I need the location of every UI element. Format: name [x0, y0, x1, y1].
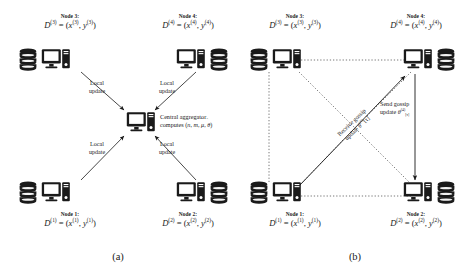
dataset-index: (1)	[50, 217, 56, 223]
x-index: (4)	[418, 19, 424, 25]
node-icons-node2	[403, 181, 456, 205]
local-update-line1: Local	[160, 141, 174, 147]
x-index: (3)	[297, 19, 303, 25]
node-equation-node3: D(3) = (x(3), y(3))	[16, 21, 124, 30]
node-icons-node1	[249, 181, 302, 205]
param-mu-hat: μ̂	[201, 121, 204, 128]
central-aggregator-label: Central aggregator computes (n̂, m̂, μ̂,…	[160, 113, 212, 130]
local-update-line2: update	[89, 149, 105, 155]
y-index: (2)	[433, 217, 439, 223]
node-equation-node4: D(4) = (x(4), y(4))	[140, 21, 236, 30]
database-icon	[436, 181, 456, 205]
node-icons-node3	[249, 48, 302, 72]
panel-caption-b: (b)	[237, 251, 473, 262]
dataset-index: (4)	[168, 19, 174, 25]
dataset-index: (4)	[396, 19, 402, 25]
send-gossip-line2: update θ(4)[τ]	[380, 109, 409, 115]
node-label-node1: Node 1: D(1) = (x(1), y(1))	[16, 212, 124, 228]
y-index: (3)	[87, 19, 93, 25]
dataset-index: (3)	[275, 19, 281, 25]
node-equation-node4: D(4) = (x(4), y(4))	[361, 21, 471, 30]
dataset-index: (2)	[396, 217, 402, 223]
local-update-line2: update	[159, 149, 175, 155]
node-icons-node2	[176, 181, 229, 205]
local-update-line1: Local	[90, 141, 104, 147]
central-aggregator-line1: Central aggregator	[160, 113, 206, 120]
label-send-gossip: Send gossip update θ(4)[τ]	[380, 101, 450, 116]
computer-icon	[403, 48, 433, 72]
node-icons-node4	[403, 48, 456, 72]
node-equation-node1: D(1) = (x(1), y(1))	[16, 219, 124, 228]
dataset-index: (3)	[50, 19, 56, 25]
computer-icon	[272, 48, 302, 72]
database-icon	[436, 48, 456, 72]
computer-icon	[126, 111, 156, 135]
database-icon	[18, 48, 38, 72]
computer-icon	[41, 48, 71, 72]
local-update-line1: Local	[160, 80, 174, 86]
param-n-hat: n̂	[187, 121, 190, 128]
y-index: (4)	[433, 19, 439, 25]
database-icon	[209, 48, 229, 72]
node-equation-node1: D(1) = (x(1), y(1))	[239, 219, 351, 228]
y-index: (3)	[312, 19, 318, 25]
node-equation-node2: D(2) = (x(2), y(2))	[361, 219, 471, 228]
database-icon	[18, 181, 38, 205]
local-update-line2: update	[89, 88, 105, 94]
dataset-index: (2)	[168, 217, 174, 223]
flow-label-local-update-node2: Local update	[150, 141, 184, 156]
node-label-node1: Node 1: D(1) = (x(1), y(1))	[239, 212, 351, 228]
theta-index: (4)	[401, 108, 405, 112]
x-index: (3)	[72, 19, 78, 25]
panel-b-decentralized: Node 3: D(3) = (x(3), y(3))	[237, 0, 473, 266]
param-theta-hat: θ̂	[207, 121, 210, 128]
y-index: (1)	[312, 217, 318, 223]
flow-label-local-update-node3: Local update	[80, 80, 114, 95]
computer-icon	[176, 181, 206, 205]
x-index: (2)	[418, 217, 424, 223]
x-index: (4)	[190, 19, 196, 25]
node-label-node3: Node 3: D(3) = (x(3), y(3))	[16, 14, 124, 30]
update-prefix: update	[380, 109, 398, 115]
node-label-node4: Node 4: D(4) = (x(4), y(4))	[140, 14, 236, 30]
send-gossip-line1: Send gossip	[380, 101, 409, 107]
computes-suffix: )	[210, 121, 212, 128]
param-m-hat: m̂	[194, 121, 198, 128]
node-label-node2: Node 2: D(2) = (x(2), y(2))	[361, 212, 471, 228]
database-icon	[249, 181, 269, 205]
node-label-node4: Node 4: D(4) = (x(4), y(4))	[361, 14, 471, 30]
node-label-node2: Node 2: D(2) = (x(2), y(2))	[140, 212, 236, 228]
node-icons-node3	[18, 48, 71, 72]
node-label-node3: Node 3: D(3) = (x(3), y(3))	[239, 14, 351, 30]
x-index: (1)	[297, 217, 303, 223]
y-index: (4)	[205, 19, 211, 25]
central-aggregator-line2: computes (n̂, m̂, μ̂, θ̂)	[160, 121, 212, 128]
x-index: (2)	[190, 217, 196, 223]
y-index: (1)	[87, 217, 93, 223]
database-icon	[249, 48, 269, 72]
panel-caption-a: (a)	[0, 251, 236, 262]
local-update-line2: update	[159, 88, 175, 94]
y-index: (2)	[205, 217, 211, 223]
computer-icon	[41, 181, 71, 205]
node-equation-node2: D(2) = (x(2), y(2))	[140, 219, 236, 228]
theta-time-index: [τ]	[405, 113, 409, 117]
figure-container: Node 3: D(3) = (x(3), y(3))	[0, 0, 473, 266]
database-icon	[209, 181, 229, 205]
node-icons-node4	[176, 48, 229, 72]
local-update-line1: Local	[90, 80, 104, 86]
computer-icon	[403, 181, 433, 205]
flow-label-local-update-node4: Local update	[150, 80, 184, 95]
node-equation-node3: D(3) = (x(3), y(3))	[239, 21, 351, 30]
flow-label-local-update-node1: Local update	[80, 141, 114, 156]
computes-prefix: computes (	[160, 121, 187, 128]
x-index: (1)	[72, 217, 78, 223]
computer-icon	[176, 48, 206, 72]
panel-a-centralized: Node 3: D(3) = (x(3), y(3))	[0, 0, 236, 266]
computer-icon	[272, 181, 302, 205]
node-icons-node1	[18, 181, 71, 205]
dataset-index: (1)	[275, 217, 281, 223]
central-aggregator-icons	[126, 111, 156, 135]
